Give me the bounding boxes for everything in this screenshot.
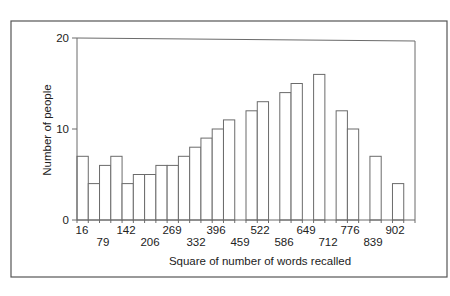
y-tick-label: 20 — [56, 32, 69, 44]
y-tick-label: 0 — [63, 214, 69, 226]
histogram-bar — [246, 111, 257, 220]
histogram-bar — [178, 156, 189, 220]
x-tick-label: 396 — [206, 224, 225, 236]
histogram-bar — [145, 175, 156, 221]
histogram-bar — [156, 165, 167, 220]
x-tick-label: 206 — [140, 236, 159, 248]
y-axis-ticks: 01020 — [56, 32, 77, 226]
x-tick-label: 902 — [385, 224, 404, 236]
histogram-bar — [190, 147, 201, 220]
plot-top-border — [77, 38, 415, 41]
histogram-bar — [201, 138, 212, 220]
histogram-bar — [77, 156, 88, 220]
histogram-bar — [88, 184, 99, 220]
histogram-bar — [336, 111, 347, 220]
histogram-bar — [122, 184, 133, 220]
histogram-bar — [257, 102, 268, 220]
histogram-bar — [212, 129, 223, 220]
histogram-bar — [314, 74, 325, 220]
x-tick-label: 649 — [296, 224, 315, 236]
histogram-bar — [347, 129, 358, 220]
x-tick-label: 332 — [186, 236, 205, 248]
histogram-bar — [167, 165, 178, 220]
histogram-figure: 01020 1679142206269332396459522586649712… — [0, 0, 450, 296]
histogram-bar — [280, 93, 291, 220]
x-tick-label: 16 — [76, 224, 89, 236]
histogram-chart: 01020 1679142206269332396459522586649712… — [0, 0, 450, 296]
x-tick-label: 776 — [340, 224, 359, 236]
histogram-bar — [111, 156, 122, 220]
y-tick-label: 10 — [56, 123, 69, 135]
x-tick-label: 459 — [230, 236, 249, 248]
bars-group — [77, 74, 404, 220]
x-tick-label: 522 — [250, 224, 269, 236]
histogram-bar — [133, 175, 144, 221]
histogram-bar — [392, 184, 403, 220]
x-tick-label: 712 — [318, 236, 337, 248]
histogram-bar — [291, 84, 302, 221]
histogram-bar — [223, 120, 234, 220]
x-tick-label: 142 — [116, 224, 135, 236]
histogram-bar — [100, 165, 111, 220]
x-axis-ticks: 1679142206269332396459522586649712776839… — [76, 220, 415, 248]
x-tick-label: 839 — [363, 236, 382, 248]
histogram-bar — [370, 156, 381, 220]
x-tick-label: 586 — [274, 236, 293, 248]
x-tick-label: 269 — [162, 224, 181, 236]
y-axis-label: Number of people — [41, 84, 53, 175]
x-axis-label: Square of number of words recalled — [169, 255, 351, 267]
x-tick-label: 79 — [97, 236, 110, 248]
